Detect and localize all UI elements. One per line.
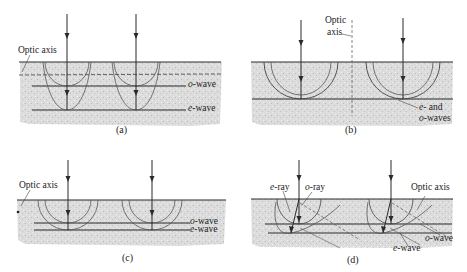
waves-label-b-line2: o-waves [419, 114, 451, 124]
optic-axis-label-a: Optic axis [18, 46, 57, 56]
optic-axis-label-c: Optic axis [19, 181, 58, 191]
wave-suffix: -wave [194, 224, 217, 234]
o-wave-label-d: o-wave [425, 234, 453, 244]
e-ray-label-d: e-ray [270, 183, 290, 193]
ray-suffix: -ray [310, 182, 325, 192]
caption-a: (a) [116, 125, 127, 135]
caption-b: (b) [345, 125, 357, 135]
wave-suffix: -wave [192, 103, 215, 113]
wave-suffix: -wave [193, 79, 216, 89]
optic-axis-label-b-line2: axis [327, 28, 342, 38]
optic-axis-leader-b [342, 34, 351, 36]
ray-suffix: -ray [274, 182, 289, 192]
o-ray-label-d: o-ray [305, 183, 325, 193]
optic-axis-dot-c [17, 211, 20, 214]
wave-suffix: -wave [397, 243, 420, 253]
optic-axis-label-b-line1: Optic [325, 16, 346, 26]
caption-c: (c) [122, 253, 133, 263]
waves-suffix: -waves [424, 113, 451, 123]
optic-axis-label-d: Optic axis [411, 183, 450, 193]
caption-d: (d) [347, 255, 359, 265]
e-wave-label-a: e-wave [188, 104, 215, 114]
panel-d [251, 160, 453, 248]
e-wave-label-c: e-wave [190, 225, 217, 235]
and-suffix: - and [423, 102, 442, 112]
e-wave-label-d: e-wave [393, 244, 420, 254]
o-wave-label-a: o-wave [188, 80, 216, 90]
waves-label-b-line1: e- and [419, 103, 442, 113]
wave-suffix: -wave [430, 233, 453, 243]
birefringence-diagram [0, 0, 467, 272]
